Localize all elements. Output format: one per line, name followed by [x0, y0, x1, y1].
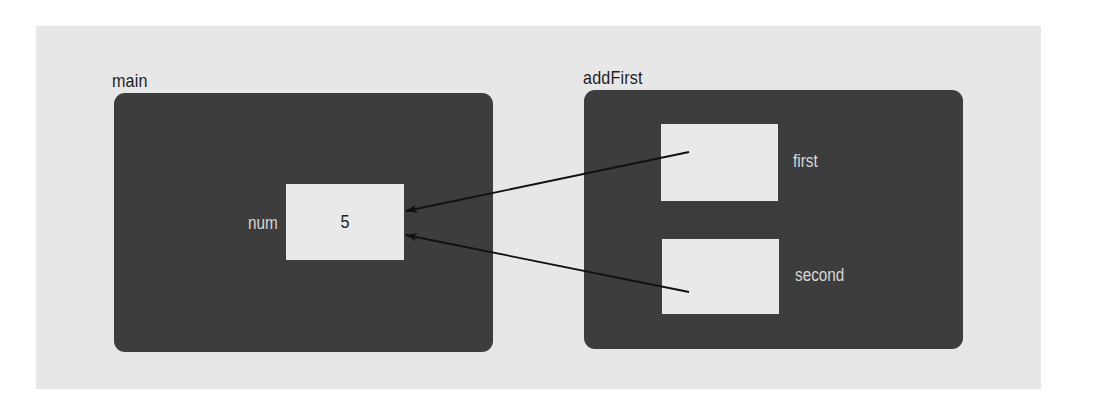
variable-label-first: first [793, 151, 818, 172]
variable-cell-second [662, 239, 779, 314]
variable-value-num: 5 [295, 211, 395, 233]
variable-cell-first [661, 124, 778, 201]
frame-label-addfirst: addFirst [583, 67, 643, 89]
variable-label-num: num [248, 213, 278, 234]
frame-addfirst: first second [584, 90, 963, 349]
frame-main: num 5 [114, 93, 493, 352]
variable-label-second: second [795, 265, 844, 286]
frame-label-main: main [112, 70, 148, 92]
variable-cell-num: 5 [286, 184, 404, 260]
